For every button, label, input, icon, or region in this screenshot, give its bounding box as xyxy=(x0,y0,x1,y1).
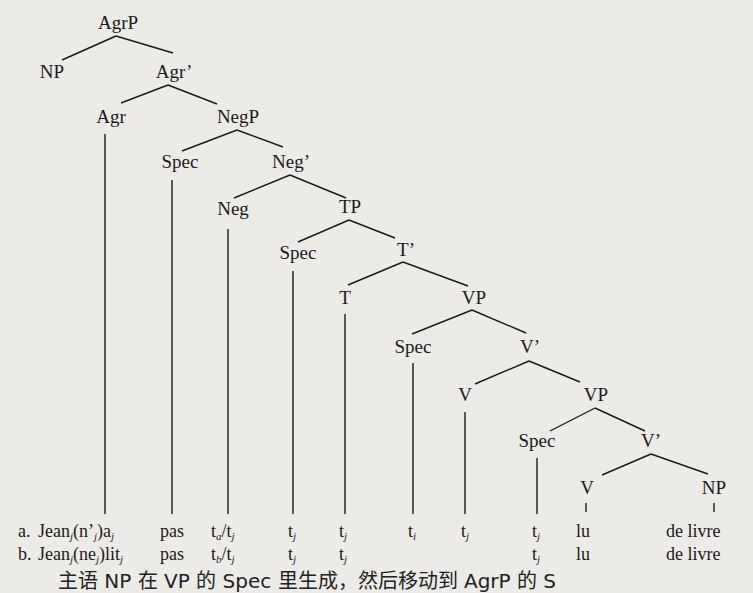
example-a-trace-v: tj xyxy=(461,521,469,546)
node-spec-vp-upper: Spec xyxy=(395,337,432,357)
example-b-trace-spec-vp-lower: tj xyxy=(532,544,540,569)
example-b-trace-t: tj xyxy=(339,544,347,569)
example-b-trace-neg: tb/tj xyxy=(211,544,235,569)
example-b-object: de livre xyxy=(666,544,720,564)
node-np-object: NP xyxy=(702,478,726,498)
example-a-trace-spec-vp: ti xyxy=(408,521,416,546)
node-vp-lower: VP xyxy=(584,385,608,405)
node-v-bar-upper: V’ xyxy=(520,337,540,357)
example-a-subject-verb: Jeanj(n’j)aj xyxy=(38,521,114,546)
example-a-trace-t: tj xyxy=(339,521,347,546)
node-spec-vp-lower: Spec xyxy=(519,431,556,451)
node-neg: Neg xyxy=(217,199,249,219)
example-b-label: b. xyxy=(18,544,32,564)
node-negp: NegP xyxy=(217,107,259,127)
node-t: T xyxy=(339,288,351,308)
example-b-participle: lu xyxy=(576,544,590,564)
example-a-object: de livre xyxy=(666,521,720,541)
example-a-trace-spec-vp-lower: tj xyxy=(532,521,540,546)
example-a-trace-spec-tp: tj xyxy=(288,521,296,546)
example-a-pas: pas xyxy=(160,521,184,541)
caption-text-partial: 主语 NP 在 VP 的 Spec 里生成，然后移动到 AgrP 的 S xyxy=(58,570,556,592)
node-tp: TP xyxy=(339,197,361,217)
example-b-trace-spec-tp: tj xyxy=(288,544,296,569)
example-b-pas: pas xyxy=(160,544,184,564)
node-agr-bar: Agr’ xyxy=(156,62,193,82)
node-t-bar: T’ xyxy=(397,240,415,260)
node-v-upper: V xyxy=(458,385,472,405)
node-np-subject: NP xyxy=(40,62,64,82)
node-spec-negp: Spec xyxy=(162,152,199,172)
node-v-lower: V xyxy=(580,478,594,498)
node-agr: Agr xyxy=(96,107,126,127)
node-v-bar-lower: V’ xyxy=(641,431,661,451)
node-agrp: AgrP xyxy=(98,13,138,33)
node-vp-upper: VP xyxy=(462,288,486,308)
example-a-trace-neg: ta/tj xyxy=(211,521,235,546)
example-a-label: a. xyxy=(18,521,31,541)
node-neg-bar: Neg’ xyxy=(272,152,310,172)
node-spec-tp: Spec xyxy=(280,243,317,263)
example-a-participle: lu xyxy=(576,521,590,541)
example-b-subject-verb: Jeanj(nej)litj xyxy=(38,544,123,569)
